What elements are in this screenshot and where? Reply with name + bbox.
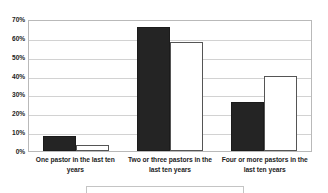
- x-axis-category-label: Two or three pastors in the last ten yea…: [123, 155, 218, 183]
- y-axis-tick-label: 70%: [0, 17, 25, 24]
- y-axis-tick-label: 30%: [0, 92, 25, 99]
- y-axis-tick-label: 0%: [0, 149, 25, 156]
- x-axis-category-label: Four or more pastors in the last ten yea…: [217, 155, 312, 183]
- bar: [76, 145, 109, 151]
- plot-area: [28, 20, 312, 152]
- bars-layer: [29, 21, 311, 151]
- x-axis-category-label: One pastor in the last ten years: [28, 155, 123, 183]
- chart-legend: [86, 186, 244, 193]
- bar: [137, 27, 170, 151]
- y-axis-tick-label: 40%: [0, 73, 25, 80]
- y-axis-tick-label: 60%: [0, 36, 25, 43]
- y-axis: 0%10%20%30%40%50%60%70%: [0, 0, 28, 193]
- y-axis-tick-label: 10%: [0, 130, 25, 137]
- y-axis-tick-label: 50%: [0, 54, 25, 61]
- bar-chart: 0%10%20%30%40%50%60%70% One pastor in th…: [0, 0, 328, 193]
- bar: [170, 42, 203, 151]
- y-axis-tick-label: 20%: [0, 111, 25, 118]
- bar: [231, 102, 264, 151]
- x-axis-category-labels: One pastor in the last ten yearsTwo or t…: [28, 155, 312, 183]
- bar: [264, 76, 297, 151]
- bar: [43, 136, 76, 151]
